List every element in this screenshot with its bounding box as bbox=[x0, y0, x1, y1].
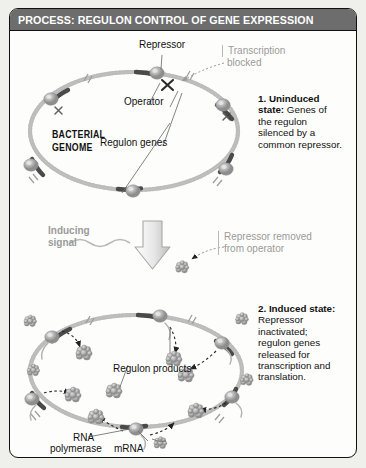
label-rna-polymerase-line2: polymerase bbox=[50, 443, 102, 455]
callout-induced-body: Repressor inactivated; regulon genes rel… bbox=[258, 314, 330, 382]
label-inducing-signal-line1: Inducing bbox=[48, 225, 90, 237]
leader-repressor bbox=[161, 55, 162, 69]
label-repressor: Repressor bbox=[139, 39, 185, 51]
label-rna-line1: RNA bbox=[73, 432, 94, 444]
label-mrna: mRNA bbox=[114, 443, 143, 455]
label-repressor-removed-line1: Repressor removed bbox=[218, 231, 312, 243]
bacterial-genome-top bbox=[24, 55, 238, 197]
blocked-x-icon bbox=[162, 80, 173, 90]
label-regulon-products: Regulon products bbox=[113, 363, 191, 375]
label-bacterial-genome-line2: GENOME bbox=[52, 142, 93, 154]
figure-frame: PROCESS: REGULON CONTROL OF GENE EXPRESS… bbox=[9, 8, 357, 458]
callout-induced-state: 2. Induced state: Repressor inactivated;… bbox=[258, 303, 342, 383]
leader-operator-2 bbox=[170, 91, 178, 107]
transition-group bbox=[70, 221, 224, 273]
label-bacterial-genome-line1: BACTERIAL bbox=[52, 129, 105, 141]
leader-mrna bbox=[138, 431, 148, 441]
callout-uninduced-state: 1. Uninduced state: Genes of the regulon… bbox=[258, 93, 342, 150]
pointer-transcription-blocked bbox=[182, 63, 224, 81]
callout-induced-title: 2. Induced state: bbox=[258, 303, 335, 314]
freed-repressor-blob bbox=[176, 261, 189, 273]
leader-regulon-genes bbox=[122, 123, 170, 193]
figure-canvas: Repressor Transcription blocked Operator… bbox=[10, 31, 356, 457]
bacterial-genome-bottom bbox=[24, 310, 253, 449]
translation-arrows bbox=[44, 327, 226, 435]
label-transcription-blocked-line1: Transcription bbox=[222, 45, 285, 57]
label-transcription-blocked-line2: blocked bbox=[227, 57, 261, 69]
down-arrow-icon bbox=[135, 221, 170, 269]
label-operator: Operator bbox=[124, 96, 163, 108]
figure-title: PROCESS: REGULON CONTROL OF GENE EXPRESS… bbox=[18, 14, 314, 26]
wavy-signal-icon bbox=[70, 240, 130, 247]
label-regulon-genes: Regulon genes bbox=[100, 137, 167, 149]
figure-banner: PROCESS: REGULON CONTROL OF GENE EXPRESS… bbox=[10, 9, 356, 31]
label-repressor-removed-line2: from operator bbox=[218, 243, 284, 255]
leader-rna-polymerase bbox=[88, 429, 130, 437]
label-inducing-signal-line2: signal bbox=[48, 237, 77, 249]
